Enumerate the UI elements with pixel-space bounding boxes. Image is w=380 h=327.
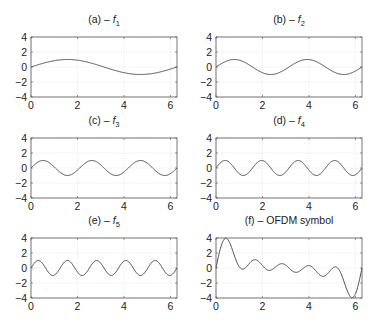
y-tick-label: −2	[200, 177, 212, 189]
y-tick-label: 4	[206, 132, 212, 144]
x-tick-label: 2	[260, 200, 266, 212]
data-curve	[216, 60, 362, 75]
x-tick-label: 4	[121, 99, 127, 111]
x-tick-label: 0	[28, 99, 34, 111]
data-curve	[31, 60, 177, 75]
x-tick-label: 0	[213, 200, 219, 212]
subplot-title: (c) – f3	[88, 114, 119, 129]
subplot-e: 0246420−2−4(e) – f5	[15, 214, 177, 312]
y-tick-label: 2	[206, 147, 212, 159]
subplot-title: (b) – f2	[273, 13, 305, 28]
y-tick-label: −4	[15, 91, 27, 103]
x-tick-label: 4	[306, 200, 312, 212]
x-tick-label: 2	[75, 300, 81, 312]
subplot-title: (a) – f1	[88, 13, 120, 28]
y-tick-label: 0	[21, 262, 27, 274]
y-tick-label: 0	[206, 61, 212, 73]
x-tick-label: 2	[75, 200, 81, 212]
x-tick-label: 4	[121, 200, 127, 212]
subplot-c: 0246420−2−4(c) – f3	[15, 114, 177, 212]
y-tick-label: 4	[21, 132, 27, 144]
y-tick-label: −2	[15, 277, 27, 289]
subplot-a: 0246420−2−4(a) – f1	[15, 13, 177, 111]
y-tick-label: −4	[200, 192, 212, 204]
x-tick-label: 0	[213, 99, 219, 111]
x-tick-label: 4	[306, 300, 312, 312]
x-tick-label: 6	[167, 300, 173, 312]
subplot-d: 0246420−2−4(d) – f4	[200, 114, 362, 212]
y-tick-label: 4	[21, 232, 27, 244]
y-tick-label: −4	[15, 292, 27, 304]
y-tick-label: 2	[21, 147, 27, 159]
x-tick-label: 6	[352, 99, 358, 111]
y-tick-label: 0	[21, 61, 27, 73]
y-tick-label: 2	[206, 247, 212, 259]
y-tick-label: 2	[21, 46, 27, 58]
y-tick-label: 0	[206, 262, 212, 274]
y-tick-label: −4	[200, 91, 212, 103]
y-tick-label: 2	[206, 46, 212, 58]
y-tick-label: −2	[15, 177, 27, 189]
x-tick-label: 4	[121, 300, 127, 312]
subplot-title: (f) – OFDM symbol	[245, 214, 334, 226]
data-curve	[216, 161, 362, 176]
y-tick-label: −2	[200, 277, 212, 289]
x-tick-label: 2	[75, 99, 81, 111]
subplot-b: 0246420−2−4(b) – f2	[200, 13, 362, 111]
figure-grid: 0246420−2−4(a) – f10246420−2−4(b) – f202…	[0, 0, 380, 327]
y-tick-label: −2	[15, 76, 27, 88]
subplot-title: (e) – f5	[88, 214, 120, 229]
x-tick-label: 0	[28, 200, 34, 212]
y-tick-label: 0	[206, 162, 212, 174]
subplot-title: (d) – f4	[273, 114, 305, 129]
y-tick-label: −2	[200, 76, 212, 88]
x-tick-label: 0	[28, 300, 34, 312]
x-tick-label: 2	[260, 99, 266, 111]
y-tick-label: 4	[206, 31, 212, 43]
subplot-f: 0246420−2−4(f) – OFDM symbol	[200, 214, 362, 312]
data-curve	[31, 261, 177, 276]
x-tick-label: 6	[167, 200, 173, 212]
x-tick-label: 0	[213, 300, 219, 312]
y-tick-label: −4	[15, 192, 27, 204]
y-tick-label: 0	[21, 162, 27, 174]
x-tick-label: 6	[352, 300, 358, 312]
x-tick-label: 6	[352, 200, 358, 212]
x-tick-label: 6	[167, 99, 173, 111]
data-curve	[31, 161, 177, 176]
x-tick-label: 4	[306, 99, 312, 111]
y-tick-label: 4	[21, 31, 27, 43]
y-tick-label: −4	[200, 292, 212, 304]
data-curve	[216, 238, 362, 297]
y-tick-label: 4	[206, 232, 212, 244]
y-tick-label: 2	[21, 247, 27, 259]
x-tick-label: 2	[260, 300, 266, 312]
